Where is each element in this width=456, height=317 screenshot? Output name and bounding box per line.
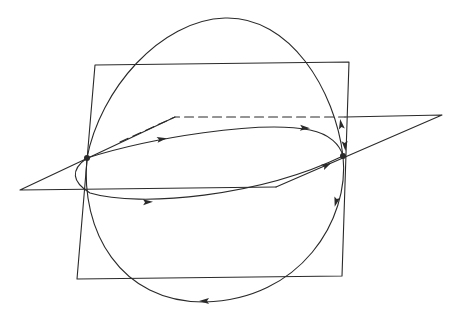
arrow-upper-loop-right-icon bbox=[300, 125, 310, 132]
horizontal-plane-front-edges bbox=[20, 117, 276, 190]
loop-lower-curve bbox=[75, 156, 343, 199]
great-circle bbox=[86, 18, 343, 302]
planes-layer bbox=[20, 62, 442, 279]
curves-layer bbox=[75, 18, 343, 302]
loop-upper-curve bbox=[87, 127, 343, 158]
arrow-circle-bottom-icon bbox=[199, 298, 209, 304]
points-layer bbox=[84, 153, 346, 161]
diagram-canvas bbox=[0, 0, 456, 317]
arrow-right-ascending-icon bbox=[337, 119, 345, 130]
left-intersection-point bbox=[84, 155, 90, 161]
right-intersection-point bbox=[340, 153, 346, 159]
